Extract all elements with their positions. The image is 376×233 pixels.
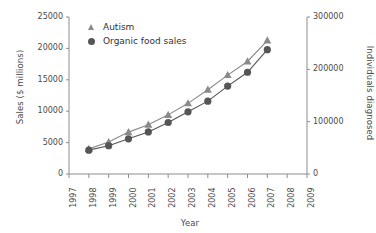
circle-marker-icon: [84, 38, 98, 45]
x-axis-tick-2005: 2005: [227, 188, 236, 228]
chart-figure: Sales ($ millions) Individuals diagnosed…: [0, 0, 376, 233]
x-axis-tick-2006: 2006: [247, 188, 256, 228]
y-axis-left-tick-0: 0: [17, 169, 63, 178]
x-axis-tick-2003: 2003: [188, 188, 197, 228]
y-axis-left-tick-25000: 25000: [17, 12, 63, 21]
triangle-marker-icon: [84, 24, 98, 30]
x-axis-tick-2008: 2008: [287, 188, 296, 228]
y-axis-right-tick-0: 0: [313, 169, 361, 178]
y-axis-right-tick-200000: 200000: [313, 64, 361, 73]
legend-item-organic-food-sales: Organic food sales: [84, 34, 187, 48]
x-axis-tick-2001: 2001: [148, 188, 157, 228]
legend-item-autism: Autism: [84, 20, 187, 34]
legend-label-autism: Autism: [103, 22, 134, 32]
x-axis-tick-2004: 2004: [207, 188, 216, 228]
x-axis-tick-1997: 1997: [69, 188, 78, 228]
legend-label-organic-food-sales: Organic food sales: [103, 36, 187, 46]
x-axis-tick-2002: 2002: [168, 188, 177, 228]
y-axis-right-tick-300000: 300000: [313, 12, 361, 21]
y-axis-left-tick-20000: 20000: [17, 43, 63, 52]
y-axis-right-title: Individuals diagnosed: [365, 33, 375, 153]
y-axis-left-tick-10000: 10000: [17, 106, 63, 115]
x-axis-tick-1999: 1999: [108, 188, 117, 228]
y-axis-left-tick-15000: 15000: [17, 75, 63, 84]
x-axis-tick-2007: 2007: [267, 188, 276, 228]
chart-legend: Autism Organic food sales: [84, 20, 187, 48]
x-axis-tick-1998: 1998: [88, 188, 97, 228]
y-axis-right-tick-100000: 100000: [313, 117, 361, 126]
y-axis-left-tick-5000: 5000: [17, 138, 63, 147]
x-axis-tick-2009: 2009: [307, 188, 316, 228]
x-axis-tick-2000: 2000: [128, 188, 137, 228]
